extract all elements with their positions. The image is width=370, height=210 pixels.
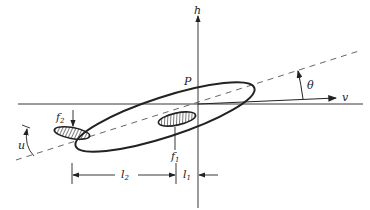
diagram-canvas: h v P θ u f2 f1 l2 l1 — [0, 0, 370, 210]
u-label: u — [18, 139, 25, 152]
velocity-vector-v — [198, 98, 336, 104]
h-axis-label: h — [194, 4, 201, 17]
f1-label: f1 — [170, 150, 180, 164]
u-angle-arc — [26, 129, 34, 156]
theta-label: θ — [307, 79, 314, 92]
l1-label: l1 — [183, 168, 191, 182]
v-axis-label: v — [342, 91, 349, 104]
f1-hatched-ellipse — [157, 109, 197, 129]
u-angle-tick — [22, 125, 30, 128]
dashed-principal-axis — [16, 50, 362, 160]
point-p-label: P — [183, 75, 192, 88]
l2-label: l2 — [121, 168, 130, 182]
f2-hatched-ellipse — [53, 124, 90, 141]
f2-label: f2 — [55, 111, 65, 125]
theta-angle-arc — [298, 71, 303, 99]
